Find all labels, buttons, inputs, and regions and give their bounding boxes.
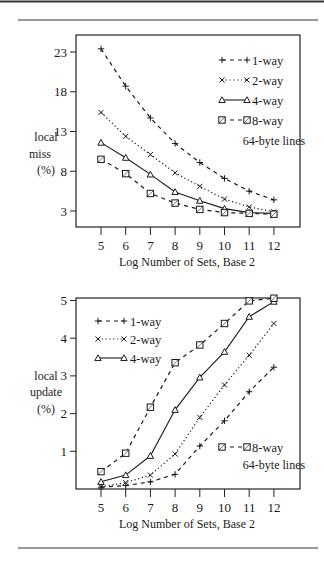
series-4-way-marker bbox=[246, 314, 252, 320]
legend-start-marker bbox=[95, 318, 101, 324]
series-8-way-marker bbox=[197, 206, 203, 212]
series-1-way-marker bbox=[271, 197, 277, 203]
series-4-way-marker bbox=[98, 139, 104, 145]
x-tick-label: 5 bbox=[98, 500, 105, 515]
series-2-way-line bbox=[101, 112, 274, 211]
series-1-way-marker bbox=[123, 83, 129, 89]
x-axis-ticks: 56789101112 bbox=[98, 489, 281, 515]
legend-start-marker bbox=[219, 117, 225, 123]
x-tick-label: 7 bbox=[147, 500, 154, 515]
legend-label: 1-way bbox=[252, 54, 284, 68]
series-2-way-marker bbox=[222, 197, 227, 202]
series-1-way-marker bbox=[197, 159, 203, 165]
x-tick-label: 11 bbox=[243, 500, 256, 515]
legend-item-8-way: 8-way bbox=[219, 441, 284, 455]
series-2-way-marker bbox=[197, 184, 202, 189]
series-2-way-marker bbox=[148, 472, 153, 477]
legend-start-marker bbox=[95, 336, 100, 341]
series-1-way bbox=[98, 46, 277, 203]
figure: 38131823 56789101112 local miss (%) Log … bbox=[0, 0, 324, 563]
y-axis-label-line3: (%) bbox=[37, 402, 55, 416]
legend-end-marker bbox=[244, 117, 250, 123]
x-tick-label: 11 bbox=[243, 238, 256, 253]
y-tick-label: 8 bbox=[61, 164, 68, 179]
series-2-way bbox=[98, 110, 276, 214]
legend-end-marker bbox=[121, 318, 127, 324]
legend-label: 2-way bbox=[130, 333, 162, 347]
legend-item-8-way: 8-way bbox=[219, 114, 284, 128]
series-2-way-marker bbox=[271, 321, 276, 326]
x-tick-label: 9 bbox=[197, 500, 204, 515]
series-8-way-marker bbox=[147, 190, 153, 196]
y-tick-label: 18 bbox=[54, 84, 67, 99]
y-tick-label: 3 bbox=[61, 368, 68, 383]
y-axis-label-line2: update bbox=[30, 385, 62, 399]
series-8-way-marker bbox=[271, 211, 277, 217]
legend-end-marker bbox=[244, 57, 250, 63]
x-tick-label: 8 bbox=[172, 238, 179, 253]
x-tick-label: 12 bbox=[267, 238, 280, 253]
series-1-way-marker bbox=[147, 479, 153, 485]
series-1-way-marker bbox=[98, 46, 104, 52]
legend-item-2-way: 2-way bbox=[219, 74, 284, 88]
series-2-way-marker bbox=[247, 353, 252, 358]
series-4-way-marker bbox=[147, 171, 153, 177]
legend: 1-way2-way4-way8-way bbox=[219, 54, 284, 128]
y-tick-label: 3 bbox=[61, 204, 68, 219]
series-1-way-marker bbox=[246, 389, 252, 395]
x-tick-label: 6 bbox=[122, 238, 129, 253]
x-axis-label: Log Number of Sets, Base 2 bbox=[119, 517, 255, 531]
legend-label: 8-way bbox=[252, 441, 284, 455]
x-tick-label: 8 bbox=[172, 500, 179, 515]
series-8-way-marker bbox=[98, 468, 104, 474]
series-2-way-marker bbox=[173, 451, 178, 456]
legend-item-1-way: 1-way bbox=[219, 54, 284, 68]
series-4-way-marker bbox=[172, 189, 178, 195]
series-1-way-marker bbox=[246, 188, 252, 194]
x-tick-label: 6 bbox=[122, 500, 129, 515]
series-4-way-marker bbox=[147, 453, 153, 459]
series-8-way-marker bbox=[271, 295, 277, 301]
local-miss-chart: 38131823 56789101112 local miss (%) Log … bbox=[29, 35, 305, 269]
series-2-way-marker bbox=[148, 152, 153, 157]
legend-item-4-way: 4-way bbox=[219, 94, 284, 108]
x-tick-label: 10 bbox=[218, 238, 231, 253]
y-axis-label-line3: (%) bbox=[37, 163, 55, 177]
legend-label: 1-way bbox=[130, 315, 162, 329]
legend: 1-way2-way4-way8-way bbox=[95, 315, 284, 455]
series-4-way bbox=[98, 139, 277, 216]
series-1-way-marker bbox=[123, 482, 129, 488]
line-size-note: 64-byte lines bbox=[243, 458, 306, 472]
series-2-way-marker bbox=[197, 415, 202, 420]
series-8-way-marker bbox=[123, 170, 129, 176]
series-8-way-marker bbox=[197, 342, 203, 348]
legend-end-marker bbox=[121, 336, 126, 341]
series-1-way-marker bbox=[172, 471, 178, 477]
series-2-way-marker bbox=[173, 170, 178, 175]
series-1-way-marker bbox=[221, 175, 227, 181]
line-size-note: 64-byte lines bbox=[243, 134, 306, 148]
series-1-way-marker bbox=[197, 443, 203, 449]
legend-start-marker bbox=[219, 57, 225, 63]
series-8-way-marker bbox=[172, 200, 178, 206]
legend-label: 4-way bbox=[252, 94, 284, 108]
y-tick-label: 5 bbox=[61, 293, 68, 308]
series-8-way-marker bbox=[246, 298, 252, 304]
x-tick-label: 7 bbox=[147, 238, 154, 253]
series-2-way-marker bbox=[123, 134, 128, 139]
series-8-way-marker bbox=[221, 320, 227, 326]
y-tick-label: 2 bbox=[61, 406, 68, 421]
x-axis-label: Log Number of Sets, Base 2 bbox=[119, 255, 255, 269]
legend-label: 4-way bbox=[130, 352, 162, 366]
series-8-way-marker bbox=[147, 404, 153, 410]
series-8-way-marker bbox=[172, 360, 178, 366]
series-8-way-marker bbox=[98, 156, 104, 162]
y-axis-label-line1: local bbox=[34, 369, 58, 383]
legend-label: 8-way bbox=[252, 114, 284, 128]
y-axis-label-line1: local bbox=[34, 130, 58, 144]
y-axis-label-line2: miss bbox=[29, 147, 51, 161]
series-2-way-marker bbox=[222, 382, 227, 387]
data-series bbox=[98, 46, 277, 218]
legend-end-marker bbox=[244, 444, 250, 450]
series-8-way-marker bbox=[221, 209, 227, 215]
